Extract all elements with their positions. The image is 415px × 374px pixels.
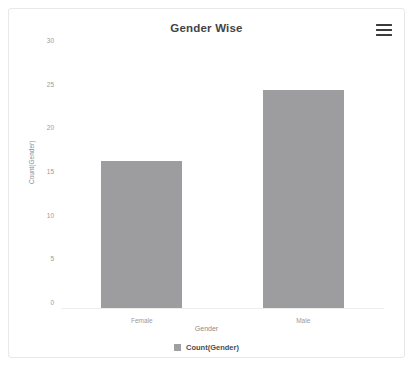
bar-male[interactable] (263, 90, 344, 309)
y-axis-tick-label: 5 (50, 255, 54, 262)
y-axis-tick-label: 10 (47, 211, 54, 218)
hamburger-line (376, 24, 392, 26)
hamburger-line (376, 34, 392, 36)
chart-card: Gender Wise 051015202530 FemaleMale Coun… (8, 8, 405, 358)
legend-label: Count(Gender) (186, 343, 239, 352)
bar-female[interactable] (101, 161, 182, 309)
y-axis-tick-label: 20 (47, 124, 54, 131)
hamburger-menu-icon[interactable] (376, 23, 392, 37)
hamburger-line (376, 29, 392, 31)
plot-area: 051015202530 FemaleMale (61, 47, 384, 309)
page-title: Gender Wise (9, 22, 404, 34)
x-axis-tick-label: Male (296, 317, 310, 324)
legend-swatch-icon (174, 344, 181, 351)
y-axis-tick-label: 30 (47, 37, 54, 44)
axis-baseline (61, 308, 384, 309)
x-axis-tick-label: Female (131, 317, 153, 324)
chart-legend: Count(Gender) (9, 343, 404, 352)
x-axis-label: Gender (9, 325, 404, 332)
y-axis-tick-label: 25 (47, 80, 54, 87)
y-axis-tick-label: 15 (47, 168, 54, 175)
y-axis-tick-label: 0 (50, 299, 54, 306)
y-axis-label: Count(Gender) (28, 141, 35, 184)
